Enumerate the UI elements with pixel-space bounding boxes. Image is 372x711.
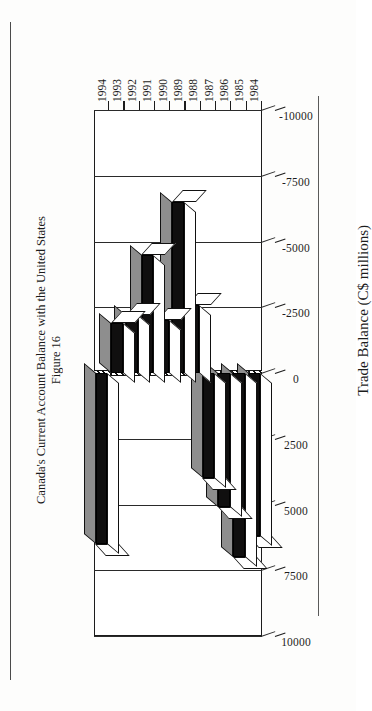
gridline [94, 636, 262, 637]
bar-top-face [107, 373, 119, 554]
bar-top-face [184, 202, 196, 383]
category-axis-tick-label: 1991 [141, 79, 153, 102]
bar-bottom-face [84, 363, 96, 544]
page-margin-rule [10, 22, 11, 680]
category-axis-tick [215, 101, 216, 110]
category-axis-tick [261, 101, 262, 110]
gridline [94, 110, 262, 111]
bar-1993[interactable] [111, 323, 123, 373]
bar-1994[interactable] [96, 373, 108, 544]
category-axis-tick [230, 101, 231, 110]
bar-top-face [245, 373, 257, 567]
value-axis-title: Trade Balance (C$ millions) [355, 40, 372, 580]
bar-1987[interactable] [203, 373, 215, 478]
category-axis-tick-label: 1993 [111, 79, 123, 102]
category-axis-tick [246, 101, 247, 110]
category-axis-tick [169, 101, 170, 110]
figure-caption-number: Figure 16 [49, 80, 64, 640]
value-axis-tick-label: -7500 [282, 176, 310, 188]
value-axis-tick-label: 7500 [284, 570, 308, 582]
category-axis-tick-label: 1984 [248, 79, 260, 102]
value-axis-tick-label: 2500 [284, 439, 308, 451]
value-axis-tick-label: -5000 [282, 242, 310, 254]
bar-front-face [203, 373, 215, 478]
category-axis-tick [139, 101, 140, 110]
category-axis-tick-label: 1985 [233, 79, 245, 102]
category-axis-tick [184, 101, 185, 110]
bar-top-face [214, 373, 226, 488]
bar-front-face [96, 373, 108, 544]
value-axis-tick-label: -2500 [282, 307, 310, 319]
category-axis-tick-label: 1986 [218, 79, 230, 102]
value-axis-tick-label: 5000 [284, 505, 308, 517]
gridline [94, 176, 262, 177]
value-axis-title-text: Trade Balance (C$ millions) [355, 225, 372, 396]
bar-top-face [199, 305, 211, 383]
value-axis-tick-label: -10000 [279, 110, 313, 122]
figure-caption-title: Canada's Current Account Balance with th… [34, 80, 49, 640]
category-axis-tick-label: 1987 [203, 79, 215, 102]
category-axis-tick-label: 1988 [187, 79, 199, 102]
bar-top-face [230, 373, 242, 517]
value-axis-tick-label: 0 [293, 373, 299, 385]
category-axis-tick [154, 101, 155, 110]
bar-top-face [138, 315, 150, 383]
category-axis-tick [200, 101, 201, 110]
category-axis-tick-label: 1992 [126, 79, 138, 102]
figure-caption: Figure 16 Canada's Current Account Balan… [34, 80, 64, 640]
bar-chart-plot-area: -10000-7500-5000-2500025005000750010000 … [80, 110, 276, 650]
bar-top-face [260, 373, 272, 546]
bar-bottom-face [99, 313, 111, 373]
value-axis-tick-label: 10000 [281, 636, 311, 648]
category-axis-tick-label: 1994 [96, 79, 108, 102]
category-axis-tick [123, 101, 124, 110]
gridline [94, 570, 262, 571]
category-axis-tick [108, 101, 109, 110]
category-axis-tick-label: 1990 [157, 79, 169, 102]
category-axis-tick-label: 1989 [172, 79, 184, 102]
value-axis-tick [275, 369, 286, 374]
bar-top-face [123, 323, 135, 383]
bar-top-face [153, 255, 165, 383]
bar-front-face [111, 323, 123, 373]
rotated-figure: Trade Balance (C$ millions) -10000-7500-… [28, 40, 328, 670]
bar-top-face [169, 320, 181, 383]
